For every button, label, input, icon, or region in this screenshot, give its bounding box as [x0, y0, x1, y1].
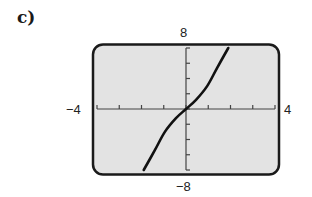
graphing-calculator-screen — [0, 0, 312, 197]
